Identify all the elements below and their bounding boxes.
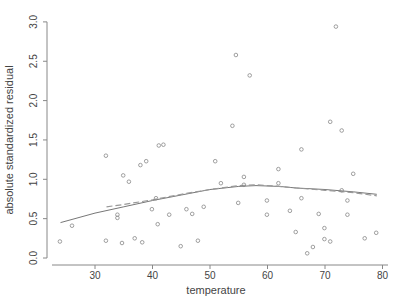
data-point [294,230,298,234]
data-point [317,212,321,216]
x-axis-ticks: 304050607080 [89,265,388,281]
x-tick-label: 70 [319,270,331,281]
data-point [351,172,355,176]
axes: 0.00.51.01.52.02.53.0 304050607080 [28,15,388,281]
y-tick-label: 1.0 [28,172,39,186]
data-point [323,237,327,241]
y-axis-ticks: 0.00.51.01.52.02.53.0 [28,15,47,265]
data-point [127,180,131,184]
data-point [300,148,304,152]
x-tick-label: 40 [147,270,159,281]
data-point [236,201,240,205]
data-point [144,159,148,163]
data-point [104,154,108,158]
data-point [288,209,292,213]
data-point [202,205,206,209]
data-point [231,124,235,128]
data-point [150,207,154,211]
y-axis-label: absolute standardized residual [3,65,15,214]
solid-fit-line [61,186,377,223]
data-point [248,74,252,78]
data-point [104,239,108,243]
data-points [58,25,378,255]
data-point [139,163,143,167]
data-point [323,226,327,230]
fit-lines [61,185,377,223]
data-point [120,241,124,245]
data-point [162,143,166,147]
y-tick-label: 3.0 [28,15,39,29]
data-point [346,199,350,203]
scatter-chart: 0.00.51.01.52.02.53.0 304050607080 tempe… [0,0,410,306]
data-point [334,25,338,29]
data-point [179,244,183,248]
data-point [242,175,246,179]
data-point [277,167,281,171]
x-tick-label: 50 [204,270,216,281]
data-point [213,159,217,163]
x-tick-label: 30 [89,270,101,281]
data-point [300,196,304,200]
data-point [340,129,344,133]
data-point [265,213,269,217]
x-axis-label: temperature [186,284,245,296]
dashed-fit-line [107,185,377,207]
data-point [234,53,238,57]
data-point [156,222,160,226]
data-point [219,181,223,185]
data-point [167,213,171,217]
data-point [311,245,315,249]
data-point [58,240,62,244]
data-point [265,199,269,203]
data-point [121,174,125,178]
y-tick-label: 2.0 [28,93,39,107]
data-point [277,181,281,185]
data-point [190,212,194,216]
x-tick-label: 80 [377,270,389,281]
data-point [363,237,367,241]
data-point [157,144,161,148]
data-point [133,237,137,241]
data-point [70,224,74,228]
x-tick-label: 60 [262,270,274,281]
data-point [328,120,332,124]
y-tick-label: 2.5 [28,54,39,68]
data-point [346,213,350,217]
chart-canvas: 0.00.51.01.52.02.53.0 304050607080 tempe… [0,0,410,306]
y-tick-label: 0.5 [28,211,39,225]
y-tick-label: 0.0 [28,251,39,265]
y-tick-label: 1.5 [28,133,39,147]
data-point [196,239,200,243]
data-point [305,252,309,256]
data-point [328,240,332,244]
data-point [374,231,378,235]
data-point [140,241,144,245]
data-point [185,207,189,211]
